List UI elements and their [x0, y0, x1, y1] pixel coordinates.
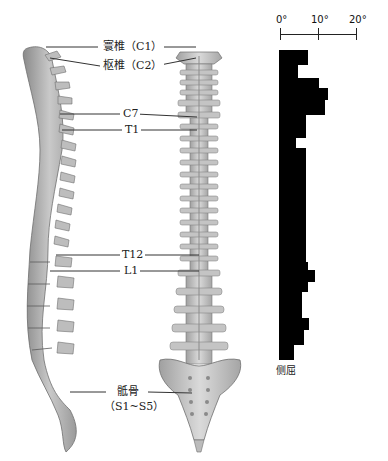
flexion-bar-segment: [279, 78, 319, 88]
tick-20: 20°: [349, 14, 367, 25]
x-axis-tick-10: [318, 28, 319, 40]
label-sacrum-range: （S1~S5）: [102, 401, 166, 413]
label-sacrum: 骶骨: [115, 386, 141, 398]
label-t12: T12: [120, 249, 145, 261]
flexion-bar-segment: [279, 330, 304, 345]
posterior-spine: [159, 52, 240, 452]
flexion-bar-segment: [279, 100, 325, 115]
flexion-bar-segment: [279, 88, 328, 100]
lateral-spine: [23, 47, 76, 452]
x-axis-tick-20: [356, 28, 357, 40]
flexion-bar-segment: [279, 115, 306, 138]
chart-caption: 侧屈: [276, 365, 296, 377]
flexion-bar-segment: [279, 50, 308, 65]
tick-0: 0°: [276, 14, 287, 25]
label-t1: T1: [123, 124, 141, 136]
flexion-bar-segment: [279, 292, 302, 318]
flexion-bar-segment: [279, 270, 315, 282]
spine-illustrations: [0, 0, 388, 461]
flexion-bar-segment: [279, 318, 309, 330]
label-c1-atlas: 寰椎（C1）: [101, 41, 164, 53]
flexion-bar-segment: [279, 282, 308, 292]
label-l1: L1: [122, 265, 140, 277]
flexion-bar-segment: [279, 345, 294, 360]
flexion-bar-segment: [279, 138, 296, 148]
label-c7: C7: [121, 108, 140, 120]
flexion-bar-segment: [279, 262, 308, 270]
flexion-bar-segment: [279, 65, 298, 78]
flexion-bar-segment: [279, 148, 306, 262]
label-c2-axis: 枢椎（C2）: [101, 60, 164, 72]
tick-10: 10°: [311, 14, 329, 25]
x-axis-tick-0: [280, 28, 281, 40]
